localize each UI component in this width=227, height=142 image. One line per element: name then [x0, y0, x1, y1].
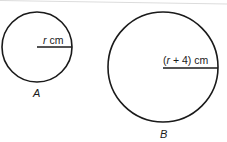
circles-diagram: r cm A (r + 4) cm B — [0, 0, 227, 142]
circle-b-radius-label: (r + 4) cm — [163, 54, 208, 66]
circle-b-group: (r + 4) cm B — [108, 12, 218, 140]
circle-b-label: B — [160, 128, 167, 140]
scan-edge-line — [0, 1, 227, 5]
circle-a-radius-label: r cm — [43, 34, 64, 46]
circle-a-label: A — [32, 87, 40, 99]
circle-b — [108, 12, 218, 122]
circle-a-group: r cm A — [2, 12, 72, 99]
